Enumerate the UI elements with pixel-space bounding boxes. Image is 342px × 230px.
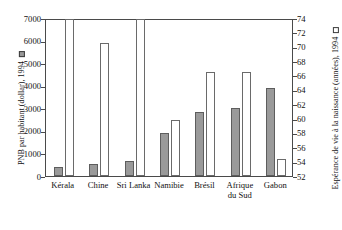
right-tick-label: 56 xyxy=(297,144,323,153)
left-tick-label: 6000 xyxy=(11,37,41,46)
bar-group xyxy=(46,20,294,176)
bar-life-expectancy xyxy=(277,159,286,176)
x-category-label: Chine xyxy=(80,180,115,190)
chart-figure: PNB par habitant (dollar), 1994 Espéranc… xyxy=(0,0,342,230)
left-tick-label: 4000 xyxy=(11,82,41,91)
right-tick-label: 72 xyxy=(297,29,323,38)
right-tick-label: 68 xyxy=(297,58,323,67)
left-tick-label: 3000 xyxy=(11,105,41,114)
right-tick-label: 66 xyxy=(297,72,323,81)
x-category-label: Brésil xyxy=(187,180,222,190)
right-tick-label: 60 xyxy=(297,115,323,124)
x-category-label: Afrique du Sud xyxy=(222,180,257,200)
left-tick-label: 1000 xyxy=(11,150,41,159)
right-tick-label: 54 xyxy=(297,158,323,167)
right-tick-label: 58 xyxy=(297,129,323,138)
left-tick-label: 7000 xyxy=(11,15,41,24)
right-tick-label: 74 xyxy=(297,15,323,24)
x-category-label: Sri Lanka xyxy=(116,180,151,190)
right-tick-label: 52 xyxy=(297,173,323,182)
right-axis-ticks: 525456586062646668707274 xyxy=(297,19,323,177)
right-tick-label: 64 xyxy=(297,86,323,95)
left-tick-label: 0 xyxy=(11,173,41,182)
left-tick-mark xyxy=(41,177,45,178)
legend-swatch-life-icon xyxy=(332,27,338,33)
left-tick-label: 2000 xyxy=(11,127,41,136)
right-tick-label: 70 xyxy=(297,43,323,52)
plot-area xyxy=(45,19,293,177)
x-axis-category-labels: KéralaChineSri LankaNamibieBrésilAfrique… xyxy=(45,180,293,228)
right-axis-title: Espérance de vie à la naissance (années)… xyxy=(332,19,340,197)
x-category-label: Gabon xyxy=(258,180,293,190)
x-category-label: Namibie xyxy=(151,180,186,190)
left-tick-label: 5000 xyxy=(11,60,41,69)
left-axis-ticks: 01000200030004000500060007000 xyxy=(8,19,41,177)
right-tick-label: 62 xyxy=(297,101,323,110)
right-tick-mark xyxy=(293,177,297,178)
bar-gnp xyxy=(266,88,275,176)
right-axis-title-text: Espérance de vie à la naissance (années)… xyxy=(331,37,340,190)
x-category-label: Kérala xyxy=(45,180,80,190)
